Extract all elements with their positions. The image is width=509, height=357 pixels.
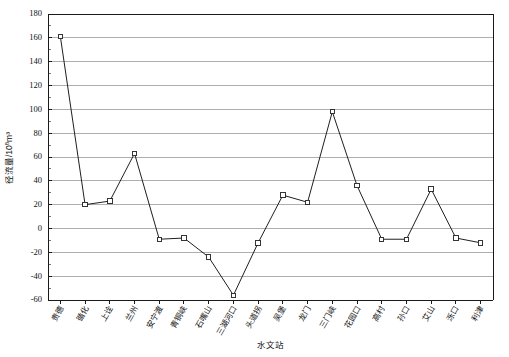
y-tick-label: -40 [31,271,42,281]
data-point-marker [132,151,136,155]
x-tick-label: 青铜峡 [169,304,190,330]
data-point-marker [157,237,161,241]
data-point-marker [454,236,458,240]
x-tick-label: 泺口 [444,304,461,323]
x-tick-label: 三门峡 [317,304,338,330]
data-point-marker [108,199,112,203]
y-tick-label: 20 [34,199,43,209]
data-point-marker [83,202,87,206]
y-tick-label: 160 [29,32,42,42]
x-tick-label: 艾山 [420,304,437,323]
data-point-marker [429,187,433,191]
y-tick-label: -20 [31,247,42,257]
data-point-marker [380,237,384,241]
y-tick-label: 140 [29,56,42,66]
x-tick-label: 上诠 [98,304,115,323]
x-tick-label: 孙口 [395,304,412,323]
x-tick-label: 花园口 [342,304,363,330]
x-tick-label: 贵德 [49,304,66,323]
data-point-marker [231,293,235,297]
data-point-marker [182,236,186,240]
y-axis-ticks-group: 180160140120100806040200-20-40-60 [29,8,52,304]
y-tick-label: 180 [29,8,42,18]
y-axis-title: 径流量/108m³ [4,132,14,184]
y-tick-label: 40 [34,175,43,185]
runoff-series-markers [58,34,483,297]
runoff-series-line [60,37,480,296]
data-point-marker [355,183,359,187]
x-tick-label: 吴堡 [271,304,288,323]
x-tick-label: 龙门 [296,304,313,323]
y-tick-label: 60 [34,151,43,161]
x-tick-label: 头道拐 [243,304,264,330]
data-point-marker [305,200,309,204]
y-axis-title-tail: m³ [4,132,14,142]
x-tick-label: 循化 [74,304,91,323]
y-tick-label: -60 [31,294,42,304]
x-tick-label: 利津 [469,304,486,323]
x-axis-ticks-group: 贵德循化上诠兰州安宁渡青铜峡石嘴山三湖河口头道拐吴堡龙门三门峡花园口高村孙口艾山… [49,300,486,337]
data-point-marker [330,110,334,114]
data-point-marker [281,193,285,197]
runoff-line-chart: 180160140120100806040200-20-40-60 贵德循化上诠… [0,0,509,357]
data-point-marker [404,237,408,241]
y-tick-label: 120 [29,80,42,90]
data-point-marker [478,241,482,245]
x-tick-label: 石嘴山 [193,304,214,330]
x-axis-title: 水文站 [257,340,284,350]
y-tick-label: 100 [29,104,42,114]
y-axis-title-base: 径流量/10 [4,145,14,184]
data-point-marker [58,34,62,38]
chart-canvas: 180160140120100806040200-20-40-60 贵德循化上诠… [0,0,509,357]
y-tick-label: 80 [34,128,43,138]
gridlines-group [48,38,493,276]
data-point-marker [256,241,260,245]
x-tick-label: 三湖河口 [214,304,239,337]
x-tick-label: 兰州 [123,304,140,323]
x-tick-label: 安宁渡 [144,304,165,330]
y-tick-label: 0 [38,223,42,233]
svg-text:径流量/108m³: 径流量/108m³ [4,132,14,184]
x-tick-label: 高村 [370,304,387,323]
data-point-marker [206,255,210,259]
